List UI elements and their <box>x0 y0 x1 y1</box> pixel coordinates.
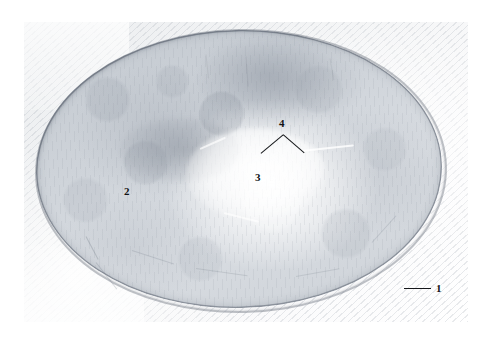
label-1-leader-line <box>404 288 431 289</box>
label-3: 3 <box>255 172 261 183</box>
micrograph-figure: 1 2 3 4 <box>0 0 496 348</box>
label-2: 2 <box>124 186 130 197</box>
label-4: 4 <box>279 118 285 129</box>
specimen-container <box>0 0 496 348</box>
label-1: 1 <box>436 283 442 294</box>
